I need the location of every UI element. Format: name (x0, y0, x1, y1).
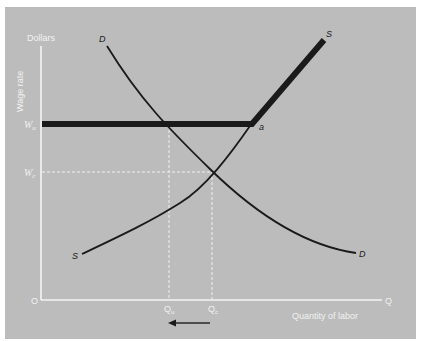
supply-curve (82, 123, 252, 254)
demand-curve (107, 46, 356, 253)
y-axis-title: Wage rate (15, 71, 25, 112)
arrowhead-left-icon (168, 320, 176, 327)
qty-union-label: Qu (164, 304, 174, 315)
union-supply-curve (42, 40, 324, 124)
x-axis-title: Quantity of labor (292, 311, 358, 321)
wage-union-label: Wu (24, 119, 36, 132)
qty-comp-label: Qc (208, 304, 218, 315)
origin-label: O (31, 296, 38, 306)
wage-comp-label: Wc (24, 167, 36, 180)
labor-market-diagram: Dollars Wage rate Quantity of labor O Q … (0, 0, 421, 341)
y-axis-unit-label: Dollars (27, 33, 56, 43)
kink-point-label: a (259, 122, 264, 132)
demand-label-top: D (99, 34, 106, 44)
demand-label-bottom: D (359, 249, 366, 259)
x-axis-end-label: Q (385, 296, 392, 306)
supply-label-top: S (326, 29, 332, 39)
supply-label-bottom: S (72, 251, 78, 261)
